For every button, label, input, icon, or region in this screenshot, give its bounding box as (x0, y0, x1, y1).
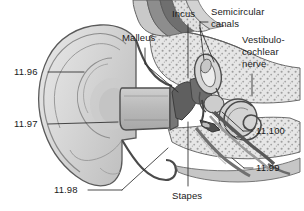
label-vestibulocochlear-line3: nerve (242, 58, 266, 69)
label-11-97: 11.97 (14, 118, 38, 129)
label-stapes: Stapes (172, 190, 202, 201)
label-malleus: Malleus (122, 32, 155, 43)
label-semicircular-canals-line1: Semicircular (211, 6, 264, 17)
label-11-96: 11.96 (14, 66, 38, 77)
label-vestibulocochlear-line1: Vestibulo- (242, 34, 285, 45)
label-11-100: 11.100 (256, 125, 285, 136)
label-11-98: 11.98 (54, 184, 78, 195)
label-vestibulocochlear-line2: cochlear (242, 46, 279, 57)
ear-canal (120, 88, 170, 130)
label-11-99: 11.99 (256, 162, 280, 173)
figure-container: 11.96 11.97 11.98 Malleus Incus Semicirc… (0, 0, 304, 211)
label-semicircular-canals-line2: canals (211, 18, 239, 29)
label-incus: Incus (172, 8, 195, 19)
